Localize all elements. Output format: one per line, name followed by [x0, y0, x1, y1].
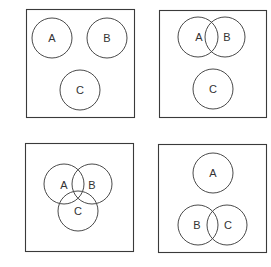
panel-4: ABC [159, 145, 267, 253]
set-label-a: A [195, 31, 203, 43]
set-label-c: C [224, 219, 232, 231]
venn-diagram-grid: ABCABCABCABC [0, 0, 271, 267]
set-label-b: B [88, 179, 95, 191]
set-label-b: B [103, 32, 110, 44]
panel-frame [26, 144, 134, 252]
set-label-b: B [193, 219, 200, 231]
set-label-c: C [209, 83, 217, 95]
panel-2: ABC [160, 11, 267, 118]
panel-frame [27, 10, 135, 118]
panel-3: ABC [26, 144, 134, 252]
set-label-c: C [76, 84, 84, 96]
panel-1: ABC [27, 10, 135, 118]
set-label-b: B [223, 31, 230, 43]
set-label-a: A [48, 32, 56, 44]
panel-frame [159, 145, 267, 253]
set-label-a: A [60, 179, 68, 191]
set-label-a: A [209, 167, 217, 179]
panel-frame [160, 11, 267, 118]
set-label-c: C [74, 205, 82, 217]
